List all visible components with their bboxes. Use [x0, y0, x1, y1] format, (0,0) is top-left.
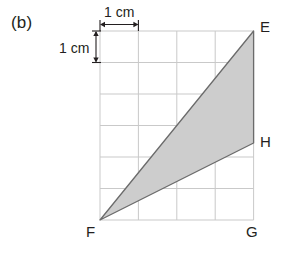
scale-arrow-head-up-icon — [93, 31, 98, 36]
figure-container: (b) 1 cm 1 cm E H F G — [0, 0, 289, 258]
vertex-label-h: H — [260, 134, 271, 149]
scale-arrow-head-left-icon — [100, 22, 105, 27]
scale-label-horizontal: 1 cm — [104, 5, 134, 19]
vertex-label-e: E — [260, 19, 270, 34]
scale-arrow-head-down-icon — [93, 58, 98, 63]
part-label: (b) — [11, 14, 32, 31]
scale-arrow-horizontal — [100, 20, 138, 31]
vertex-label-f: F — [86, 224, 95, 239]
scale-label-vertical: 1 cm — [59, 41, 89, 55]
vertex-label-g: G — [246, 224, 258, 239]
figure-canvas — [0, 0, 289, 258]
scale-arrow-head-right-icon — [133, 22, 138, 27]
